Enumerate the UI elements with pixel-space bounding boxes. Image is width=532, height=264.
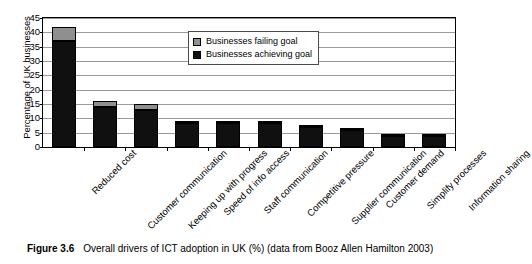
bar-segment-failing <box>134 104 158 110</box>
legend-swatch-achieving-icon <box>193 51 201 59</box>
bar-group <box>93 18 117 147</box>
bar-group <box>52 18 76 147</box>
bar-segment-achieving <box>258 123 282 147</box>
bar-segment-achieving <box>134 110 158 147</box>
bar-segment-achieving <box>216 123 240 147</box>
bar-segment-achieving <box>422 136 446 147</box>
y-tick-label-15: 15 <box>29 99 40 109</box>
bar-segment-achieving <box>340 130 364 147</box>
bar-segment-failing <box>216 121 240 123</box>
y-tick-label-40: 40 <box>29 28 40 38</box>
bar-segment-achieving <box>93 107 117 147</box>
y-tick-label-35: 35 <box>29 42 40 52</box>
bar-group <box>381 18 405 147</box>
bar-group <box>340 18 364 147</box>
plot-area: 051015202530354045 Businesses failing go… <box>42 17 456 148</box>
x-axis-category-labels: Reduced costCustomer communicationKeepin… <box>42 148 456 230</box>
legend-item-achieving: Businesses achieving goal <box>193 48 312 61</box>
y-tick-label-20: 20 <box>29 85 40 95</box>
y-tick-label-45: 45 <box>29 13 40 23</box>
bar-segment-failing <box>258 121 282 123</box>
figure-caption-text: Overall drivers of ICT adoption in UK (%… <box>83 243 433 254</box>
bar-group <box>422 18 446 147</box>
bar-segment-failing <box>175 121 199 123</box>
x-axis-label: Reduced cost <box>90 148 138 196</box>
chart-legend: Businesses failing goal Businesses achie… <box>188 31 319 65</box>
x-axis-label: Customer communication <box>145 148 228 231</box>
figure-caption: Figure 3.6Overall drivers of ICT adoptio… <box>27 243 459 255</box>
bar-segment-achieving <box>299 127 323 147</box>
figure-caption-label: Figure 3.6 <box>27 243 74 254</box>
bar-group <box>134 18 158 147</box>
bar-segment-achieving <box>381 136 405 147</box>
bar-segment-achieving <box>175 123 199 147</box>
legend-swatch-failing-icon <box>193 38 201 46</box>
bar-segment-achieving <box>52 41 76 147</box>
bar-segment-failing <box>93 101 117 107</box>
bar-segment-failing <box>340 128 364 130</box>
legend-item-failing: Businesses failing goal <box>193 35 312 48</box>
bar-segment-failing <box>381 134 405 136</box>
legend-label-failing: Businesses failing goal <box>206 37 298 46</box>
y-tick-label-25: 25 <box>29 71 40 81</box>
bar-segment-failing <box>52 27 76 41</box>
legend-label-achieving: Businesses achieving goal <box>206 50 312 59</box>
y-tick-label-30: 30 <box>29 56 40 66</box>
bar-segment-failing <box>422 134 446 136</box>
bar-segment-failing <box>299 125 323 127</box>
y-tick-label-10: 10 <box>29 114 40 124</box>
